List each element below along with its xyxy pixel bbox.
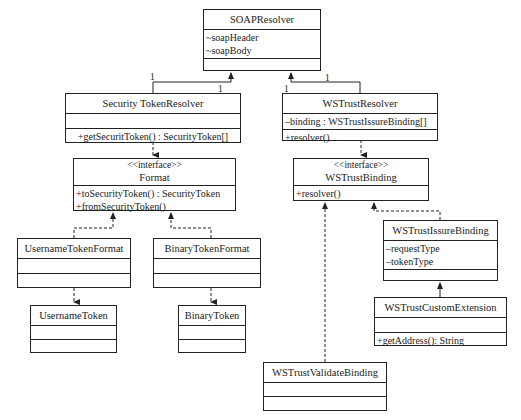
class-name: Security TokenResolver (66, 94, 240, 113)
class-name: Format (139, 172, 169, 183)
class-name: UsernameToken (31, 306, 116, 325)
stereotype: <<interface>> (296, 160, 426, 171)
class-name: WSTrustBinding (325, 172, 396, 183)
class-name: WSTrustIssureBinding (384, 221, 497, 240)
methods-section: +resolver() (283, 129, 437, 145)
methods-section (31, 339, 116, 353)
method: +getAddress(): String (377, 334, 504, 347)
stereotype: <<interface>> (76, 160, 233, 171)
attributes-section: –binding : WSTrustIssureBinding[] (283, 113, 437, 129)
class-ws-trust-custom-extension[interactable]: WSTrustCustomExtension +getAddress(): St… (374, 297, 507, 346)
method: +fromSecurityToken() (76, 200, 233, 213)
attribute: ~soapHeader (206, 31, 318, 44)
attributes-section (31, 325, 116, 339)
class-ws-trust-issue-binding[interactable]: WSTrustIssureBinding –requestType –token… (383, 220, 498, 281)
attributes-section (264, 382, 386, 396)
attributes-section (375, 317, 506, 332)
methods-section (204, 58, 320, 70)
interface-header: <<interface>> Format (74, 159, 235, 185)
interface-format[interactable]: <<interface>> Format +toSecurityToken() … (73, 158, 236, 211)
class-soap-resolver[interactable]: SOAPResolver ~soapHeader ~soapBody (203, 9, 321, 71)
method: +resolver() (296, 187, 426, 200)
methods-section (179, 339, 245, 353)
class-name: BinaryToken (179, 306, 245, 325)
class-name: SOAPResolver (204, 10, 320, 29)
class-name: UsernameTokenFormat (18, 239, 130, 258)
class-name: WSTrustValidateBinding (264, 363, 386, 382)
class-name: WSTrustResolver (283, 94, 437, 113)
interface-ws-trust-binding[interactable]: <<interface>> WSTrustBinding +resolver() (293, 158, 429, 201)
methods-section: +getAddress(): String (375, 332, 506, 348)
methods-section: +resolver() (294, 185, 428, 201)
multiplicity-label: 1 (150, 72, 155, 82)
attribute: –tokenType (386, 255, 495, 268)
class-ws-trust-resolver[interactable]: WSTrustResolver –binding : WSTrustIssure… (282, 93, 438, 141)
methods-section (264, 396, 386, 410)
attributes-section (66, 113, 240, 128)
class-binary-token-format[interactable]: BinaryTokenFormat (153, 238, 261, 288)
method: +toSecurityToken() : SecurityToken (76, 187, 233, 200)
attributes-section (18, 258, 130, 273)
interface-header: <<interface>> WSTrustBinding (294, 159, 428, 185)
attributes-section: ~soapHeader ~soapBody (204, 29, 320, 58)
class-username-token-format[interactable]: UsernameTokenFormat (17, 238, 131, 288)
attributes-section: –requestType –tokenType (384, 240, 497, 269)
class-ws-trust-validate-binding[interactable]: WSTrustValidateBinding (263, 362, 387, 411)
methods-section (384, 269, 497, 280)
methods-section: +toSecurityToken() : SecurityToken +from… (74, 185, 235, 214)
class-username-token[interactable]: UsernameToken (30, 305, 117, 353)
attribute: –requestType (386, 242, 495, 255)
methods-section: +getSecuritToken() : SecurityToken[] (66, 128, 240, 144)
attributes-section (179, 325, 245, 339)
methods-section (154, 273, 260, 288)
multiplicity-label: 1 (325, 73, 330, 83)
attribute: ~soapBody (206, 44, 318, 57)
class-binary-token[interactable]: BinaryToken (178, 305, 246, 353)
method: +resolver() (285, 131, 435, 144)
class-security-token-resolver[interactable]: Security TokenResolver +getSecuritToken(… (65, 93, 241, 143)
class-name: BinaryTokenFormat (154, 239, 260, 258)
attribute: –binding : WSTrustIssureBinding[] (285, 115, 435, 128)
class-name: WSTrustCustomExtension (375, 298, 506, 317)
methods-section (18, 273, 130, 288)
method: +getSecuritToken() : SecurityToken[] (68, 130, 238, 143)
attributes-section (154, 258, 260, 273)
